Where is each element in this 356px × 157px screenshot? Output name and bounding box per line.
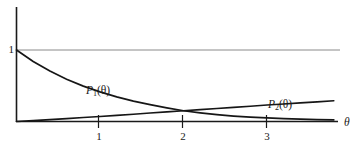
x-tick-label-3: 3 — [260, 131, 274, 142]
curve-label-p1-symbol: P — [86, 84, 93, 96]
curve-label-p2-argument: (θ) — [279, 98, 292, 110]
curve-label-p2: P2(θ) — [268, 99, 292, 112]
x-tick-label-1: 1 — [92, 131, 106, 142]
y-axis-value-label-1: 1 — [2, 44, 14, 55]
x-axis-name-label: θ — [344, 117, 350, 129]
curve-label-p1: P1(θ) — [86, 85, 110, 98]
x-tick-label-2: 2 — [176, 131, 190, 142]
curve-label-p2-symbol: P — [268, 98, 275, 110]
plot-figure: 1 1 2 3 P1(θ) P2(θ) θ — [0, 0, 356, 157]
curve-label-p1-argument: (θ) — [97, 84, 110, 96]
